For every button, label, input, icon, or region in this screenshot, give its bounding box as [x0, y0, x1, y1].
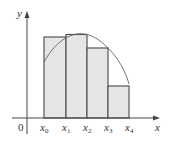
tick-label-x2: x2	[83, 122, 91, 135]
tick-label-x1: x1	[62, 122, 70, 135]
tick-label-x0: x0	[40, 122, 48, 135]
tick-label-x3: x3	[104, 122, 112, 135]
y-axis-label: y	[17, 8, 22, 19]
y-axis-arrow-icon	[25, 11, 30, 18]
rectangle-1	[44, 37, 66, 118]
rectangles	[44, 35, 129, 119]
rectangle-2	[66, 35, 87, 119]
tick-label-x4: x4	[125, 122, 133, 135]
x-axis-label: x	[155, 122, 160, 133]
origin-label: 0	[18, 122, 24, 133]
rectangle-3	[87, 48, 108, 118]
x-axis-arrow-icon	[153, 116, 160, 121]
rectangle-4	[108, 86, 129, 118]
